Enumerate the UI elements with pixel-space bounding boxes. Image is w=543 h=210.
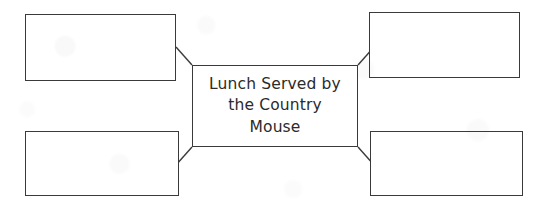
connector-center-to-top-left — [176, 47, 192, 65]
answer-box-top-right[interactable] — [369, 12, 520, 78]
answer-box-bottom-right[interactable] — [370, 131, 523, 196]
diagram-canvas: Lunch Served by the Country Mouse — [0, 0, 543, 210]
center-topic-box: Lunch Served by the Country Mouse — [192, 65, 358, 147]
answer-box-bottom-left[interactable] — [25, 131, 179, 196]
center-topic-label: Lunch Served by the Country Mouse — [203, 74, 347, 138]
answer-box-top-left[interactable] — [25, 14, 176, 81]
